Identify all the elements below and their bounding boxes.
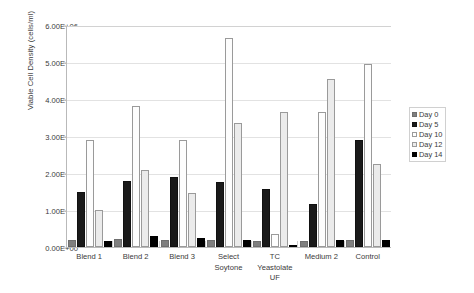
bar[interactable] [170,177,178,247]
chart-legend: Day 0Day 5Day 10Day 12Day 14 [409,107,446,162]
bar[interactable] [327,79,335,247]
bar-group [298,26,344,247]
legend-item[interactable]: Day 5 [412,120,442,129]
bar[interactable] [253,241,261,247]
bar-group [67,26,113,247]
bar[interactable] [243,240,251,247]
bar[interactable] [114,239,122,247]
bar[interactable] [161,240,169,247]
bar[interactable] [207,240,215,247]
bar[interactable] [197,238,205,247]
bar[interactable] [68,240,76,247]
x-tick-label: Select Soytone [205,252,251,284]
bar[interactable] [150,236,158,247]
legend-label: Day 12 [419,140,442,149]
legend-swatch-icon [412,142,417,147]
legend-item[interactable]: Day 10 [412,130,442,139]
legend-label: Day 14 [419,150,442,159]
bar[interactable] [132,106,140,247]
legend-swatch-icon [412,112,417,117]
bar[interactable] [280,112,288,247]
bar-group [206,26,252,247]
bar[interactable] [86,140,94,247]
bar-group [345,26,391,247]
legend-swatch-icon [412,152,417,157]
bar[interactable] [289,245,297,247]
bar[interactable] [123,181,131,247]
legend-swatch-icon [412,122,417,127]
x-tick-label: Blend 2 [112,252,158,284]
x-tick-label: Medium 2 [298,252,344,284]
bar[interactable] [141,170,149,247]
x-tick-label: TC Yeastolate UF [252,252,298,284]
bar[interactable] [262,189,270,247]
bar[interactable] [179,140,187,247]
bar[interactable] [216,182,224,247]
bar[interactable] [77,192,85,248]
bar[interactable] [373,164,381,247]
bar[interactable] [309,204,317,247]
bar-group [160,26,206,247]
x-tick-label: Control [345,252,391,284]
bar[interactable] [188,193,196,247]
bar[interactable] [104,241,112,247]
bar[interactable] [346,240,354,247]
plot-area [66,26,391,248]
bar[interactable] [225,38,233,247]
bar[interactable] [95,210,103,247]
bar[interactable] [355,140,363,247]
legend-item[interactable]: Day 0 [412,110,442,119]
bar[interactable] [318,112,326,247]
legend-label: Day 0 [419,110,438,119]
x-tick-label: Blend 3 [159,252,205,284]
bar[interactable] [234,123,242,247]
bar-group [113,26,159,247]
legend-item[interactable]: Day 14 [412,150,442,159]
x-axis-labels: Blend 1Blend 2Blend 3Select SoytoneTC Ye… [66,252,391,284]
bar[interactable] [271,234,279,247]
bar[interactable] [382,240,390,247]
x-tick-label: Blend 1 [66,252,112,284]
bar-chart: Viable Cell Density (cells/ml) 0.00E+001… [0,0,474,293]
legend-item[interactable]: Day 12 [412,140,442,149]
bar-group [252,26,298,247]
legend-label: Day 10 [419,130,442,139]
legend-swatch-icon [412,132,417,137]
bar[interactable] [364,64,372,247]
legend-label: Day 5 [419,120,438,129]
bar-groups [67,26,391,247]
bar[interactable] [336,240,344,247]
bar[interactable] [300,241,308,247]
